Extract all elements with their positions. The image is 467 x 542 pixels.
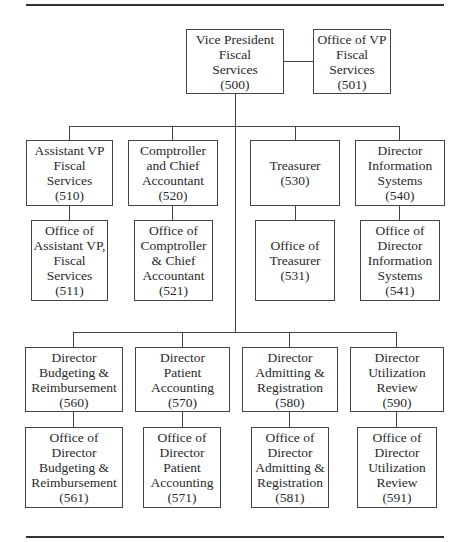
box-line: Services — [212, 62, 258, 77]
box-code: (511) — [55, 283, 84, 298]
box-line: Services — [329, 62, 375, 77]
connector-row2-bus — [73, 332, 397, 333]
box-line: Treasurer — [269, 158, 320, 173]
box-line: Budgeting & — [39, 365, 109, 380]
org-box-540-director-information-systems: Director Information Systems (540) — [355, 140, 445, 206]
box-line: Services — [47, 268, 93, 283]
box-line: Utilization — [368, 365, 426, 380]
connector-row2-580 — [289, 332, 290, 347]
box-line: Office of — [45, 223, 94, 238]
box-code: (501) — [337, 77, 366, 92]
box-code: (521) — [159, 283, 188, 298]
box-code: (580) — [275, 395, 304, 410]
box-code: (530) — [280, 173, 309, 188]
box-code: (561) — [59, 490, 88, 505]
box-line: Director — [378, 238, 423, 253]
box-line: & Chief — [152, 253, 196, 268]
box-line: Director — [52, 350, 97, 365]
org-box-580-director-admitting: Director Admitting & Registration (580) — [242, 347, 338, 412]
box-line: Reimbursement — [31, 380, 116, 395]
box-line: Accounting — [151, 475, 214, 490]
connector-560-561 — [73, 411, 74, 427]
box-code: (590) — [382, 395, 411, 410]
box-line: Fiscal — [219, 47, 251, 62]
box-line: Admitting & — [255, 460, 324, 475]
org-box-571-office-director-patient-accounting: Office of Director Patient Accounting (5… — [143, 427, 221, 508]
org-box-570-director-patient-accounting: Director Patient Accounting (570) — [135, 347, 230, 412]
box-line: Fiscal — [336, 47, 368, 62]
connector-590-591 — [396, 411, 397, 427]
connector-row1-530 — [295, 126, 296, 140]
box-line: Vice President — [196, 32, 274, 47]
box-code: (500) — [220, 77, 249, 92]
connector-main-trunk — [235, 93, 236, 333]
box-line: Systems — [377, 173, 422, 188]
box-line: Comptroller — [140, 143, 206, 158]
org-box-581-office-director-admitting: Office of Director Admitting & Registrat… — [251, 427, 329, 508]
connector-row2-560 — [73, 332, 74, 347]
connector-510-511 — [69, 205, 70, 220]
connector-570-571 — [182, 411, 183, 427]
box-line: Comptroller — [141, 238, 207, 253]
box-line: Office of — [266, 430, 315, 445]
box-line: Director — [52, 445, 97, 460]
box-line: Patient — [163, 460, 201, 475]
box-line: Reimbursement — [31, 475, 116, 490]
box-line: Review — [376, 380, 417, 395]
box-line: Director — [160, 350, 205, 365]
box-line: Director — [268, 445, 313, 460]
connector-row1-bus — [69, 126, 400, 127]
box-line: Director — [160, 445, 205, 460]
box-line: Office of — [271, 238, 320, 253]
box-line: Director — [375, 350, 420, 365]
box-line: and Chief — [147, 158, 200, 173]
box-line: Review — [376, 475, 417, 490]
box-line: Admitting & — [255, 365, 324, 380]
box-line: Assistant VP, — [34, 238, 106, 253]
connector-row1-540 — [399, 126, 400, 140]
box-code: (531) — [280, 268, 309, 283]
box-line: Patient — [164, 365, 202, 380]
box-line: Office of — [376, 223, 425, 238]
box-line: Information — [368, 158, 432, 173]
org-box-521-office-comptroller: Office of Comptroller & Chief Accountant… — [134, 220, 213, 301]
connector-row2-590 — [396, 332, 397, 347]
org-box-561-office-director-budgeting: Office of Director Budgeting & Reimburse… — [25, 427, 123, 508]
org-box-541-office-director-information-systems: Office of Director Information Systems (… — [360, 220, 440, 301]
box-line: Treasurer — [269, 253, 320, 268]
box-code: (540) — [385, 188, 414, 203]
org-box-510-assistant-vp: Assistant VP Fiscal Services (510) — [26, 140, 113, 206]
box-line: Assistant VP — [35, 143, 105, 158]
box-line: Director — [375, 445, 420, 460]
box-code: (520) — [158, 188, 187, 203]
box-line: Office of — [158, 430, 207, 445]
connector-row1-510 — [69, 126, 70, 140]
connector-520-521 — [172, 205, 173, 220]
top-rule — [26, 4, 444, 6]
box-line: Registration — [257, 380, 323, 395]
org-box-560-director-budgeting: Director Budgeting & Reimbursement (560) — [25, 347, 123, 412]
org-box-511-office-assistant-vp: Office of Assistant VP, Fiscal Services … — [31, 220, 108, 301]
box-line: Accountant — [142, 268, 204, 283]
bottom-rule — [26, 536, 444, 538]
org-box-520-comptroller: Comptroller and Chief Accountant (520) — [128, 140, 218, 206]
connector-row2-570 — [182, 332, 183, 347]
box-code: (560) — [59, 395, 88, 410]
box-line: Accountant — [142, 173, 204, 188]
org-box-531-office-treasurer: Office of Treasurer (531) — [255, 220, 335, 301]
box-line: Fiscal — [53, 253, 85, 268]
box-line: Office of — [149, 223, 198, 238]
box-code: (591) — [382, 490, 411, 505]
org-box-590-director-utilization-review: Director Utilization Review (590) — [350, 347, 444, 412]
box-code: (541) — [385, 283, 414, 298]
box-line: Budgeting & — [39, 460, 109, 475]
box-code: (510) — [55, 188, 84, 203]
box-code: (570) — [168, 395, 197, 410]
connector-vp-office — [283, 61, 313, 62]
box-line: Office of — [373, 430, 422, 445]
org-box-530-treasurer: Treasurer (530) — [250, 140, 340, 206]
box-line: Director — [268, 350, 313, 365]
org-box-501-office-of-vp: Office of VP Fiscal Services (501) — [313, 29, 391, 94]
box-line: Information — [368, 253, 432, 268]
box-line: Utilization — [368, 460, 426, 475]
